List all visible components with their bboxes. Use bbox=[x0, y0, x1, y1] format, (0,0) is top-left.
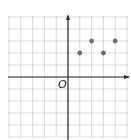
data-point bbox=[89, 39, 94, 44]
data-point bbox=[101, 51, 106, 56]
data-point bbox=[77, 51, 82, 56]
origin-label: O bbox=[58, 78, 67, 91]
axes bbox=[8, 14, 130, 140]
data-point bbox=[113, 39, 118, 44]
coordinate-plane bbox=[0, 0, 131, 140]
